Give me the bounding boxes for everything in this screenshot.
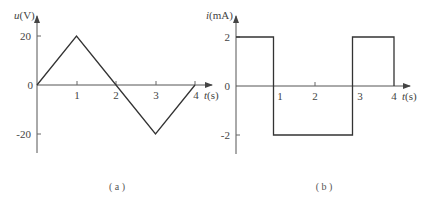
x-axis-label-b: t(s) [402, 90, 417, 103]
x-tick-label-a-1: 1 [74, 89, 80, 101]
x-tick-label-b-1: 1 [277, 90, 283, 102]
caption-b: ( b ) [316, 181, 333, 193]
x-tick-label-b-3: 3 [357, 90, 363, 102]
x-axis-label-a: t(s) [204, 89, 219, 102]
y-tick-label-b-neg2: -2 [221, 129, 230, 141]
figure: u(V) 20 0 -20 1 2 3 4 t(s) ( a ) i(mA) 2… [0, 0, 428, 205]
y-axis-label-a: u(V) [14, 9, 35, 22]
y-tick-label-b-0: 0 [225, 80, 231, 92]
x-tick-label-a-2: 2 [113, 89, 119, 101]
chart-b: i(mA) 2 0 -2 1 2 3 4 t(s) ( b ) [206, 9, 417, 193]
chart-a: u(V) 20 0 -20 1 2 3 4 t(s) ( a ) [14, 9, 219, 193]
y-tick-label-b-2: 2 [225, 31, 231, 43]
y-tick-label-a-neg20: -20 [16, 128, 31, 140]
y-tick-label-a-20: 20 [20, 30, 32, 42]
x-tick-label-b-4: 4 [391, 90, 397, 102]
x-tick-label-a-4: 4 [193, 89, 199, 101]
x-tick-label-b-2: 2 [312, 90, 318, 102]
y-axis-label-b: i(mA) [206, 9, 233, 22]
x-tick-label-a-3: 3 [153, 89, 159, 101]
caption-a: ( a ) [109, 181, 125, 193]
y-tick-label-a-0: 0 [28, 79, 34, 91]
